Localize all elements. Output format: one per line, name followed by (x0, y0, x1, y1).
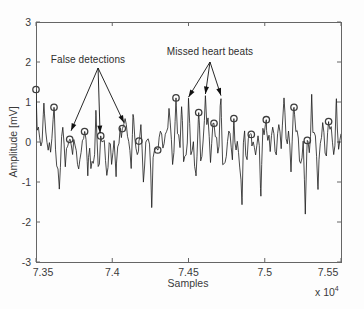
x-tick-label: 7.55 (318, 266, 338, 278)
y-tick-label: 1 (25, 96, 31, 108)
annotation-arrow-line (98, 68, 100, 133)
x-tick-label: 7.35 (33, 266, 53, 278)
ecg-detection-figure: Amplitude [mV] Samples x 104 False detec… (0, 0, 364, 309)
y-tick-label: 2 (25, 56, 31, 68)
x-tick-label: 7.5 (257, 266, 272, 278)
annotation-arrow-line (71, 68, 98, 131)
annotation-arrow-line (98, 68, 124, 123)
x-axis-multiplier-base: x 10 (315, 286, 335, 298)
x-tick-label: 7.4 (105, 266, 120, 278)
x-axis-title: Samples (168, 277, 209, 289)
x-axis-multiplier-exponent: 4 (335, 285, 339, 292)
annotation-arrowhead-icon (97, 126, 102, 134)
y-tick-label: -2 (22, 216, 31, 228)
y-tick-label: 0 (25, 136, 31, 148)
annotation-arrowhead-icon (189, 90, 195, 98)
annotation-arrowhead-icon (71, 123, 76, 131)
y-axis-title: Amplitude [mV] (7, 106, 19, 177)
annotation-arrowhead-icon (216, 88, 221, 96)
y-tick-label: 3 (25, 16, 31, 28)
annotation-arrows-1 (189, 62, 222, 97)
y-tick-label: -1 (22, 176, 31, 188)
y-tick-label: -3 (22, 256, 31, 268)
annotation-label-false-detections: False detections (51, 53, 125, 64)
annotation-arrowhead-icon (119, 115, 124, 123)
annotation-arrows-0 (71, 68, 124, 133)
annotation-label-missed-heart-beats: Missed heart beats (167, 45, 253, 56)
x-tick-label: 7.45 (178, 266, 198, 278)
annotation-arrowhead-icon (204, 86, 209, 94)
x-axis-multiplier: x 104 (315, 285, 339, 298)
signal-trace (36, 90, 341, 215)
